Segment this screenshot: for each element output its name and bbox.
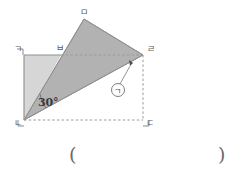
unknown-angle-marker: ㄱ [114,85,121,96]
geometry-figure: ㄱ ㄴ ㄷ ㄹ ㅁ ㅂ 30° ㄱ ( ) [0,0,238,181]
vertex-label-right: ㄹ [147,45,155,54]
vertex-label-apex: ㅁ [80,8,88,17]
angle-label-30: 30° [38,96,58,109]
vertex-label-bottom-right: ㄷ [146,119,154,128]
answer-row: ( ) [0,143,238,173]
vertex-label-top-left: ㄱ [14,45,22,54]
answer-close-paren: ) [218,143,225,165]
vertex-label-bottom-left: ㄴ [14,119,22,128]
answer-open-paren: ( [69,143,76,165]
marker-leader-line [120,66,130,84]
vertex-label-top-mid: ㅂ [56,44,64,53]
